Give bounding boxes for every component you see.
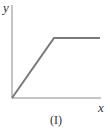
- y-axis-label: y: [1, 0, 9, 15]
- chart: y x (I): [0, 0, 110, 130]
- caption: (I): [50, 113, 62, 127]
- x-axis-label: x: [97, 100, 104, 115]
- data-line: [12, 38, 100, 98]
